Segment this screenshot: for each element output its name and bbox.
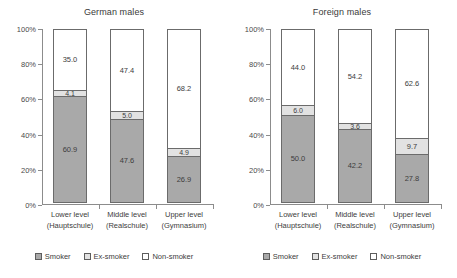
y-tick-label-40: 40% [21, 130, 36, 139]
chart-page: German males 100% 80% 60% 40% 20% 0% 3 [0, 0, 457, 278]
legend-item-non-smoker[interactable]: Non-smoker [370, 252, 421, 261]
category-label-line1: Upper level [393, 210, 431, 219]
legend-swatch-smoker-icon [35, 253, 42, 260]
legend-foreign-males: Smoker Ex-smoker Non-smoker [228, 252, 456, 261]
chart-panel-german-males: German males 100% 80% 60% 40% 20% 0% 3 [0, 0, 228, 250]
segment-smoker[interactable]: 50.0 [281, 115, 315, 203]
category-label-upper-level: Upper level (Gymnasium) [149, 209, 219, 231]
y-tick-label-20: 20% [21, 165, 36, 174]
stacked-bar-upper-level[interactable]: 62.6 9.7 27.8 [395, 29, 429, 205]
legend-swatch-smoker-icon [263, 253, 270, 260]
legend-item-ex-smoker[interactable]: Ex-smoker [312, 252, 358, 261]
category-label-line2: (Gymnasium) [377, 220, 447, 231]
category-label-line1: Upper level [165, 210, 203, 219]
segment-value-non-smoker: 47.4 [120, 67, 135, 75]
category-label-line1: Middle level [335, 210, 375, 219]
segment-value-smoker: 26.9 [177, 176, 192, 184]
x-axis-category-labels: Lower level (Hauptschule) Middle level (… [42, 209, 214, 241]
legend-label-smoker: Smoker [273, 252, 299, 261]
segment-value-non-smoker: 35.0 [63, 56, 78, 64]
segment-smoker[interactable]: 27.8 [395, 154, 429, 203]
stacked-bar-middle-level[interactable]: 54.2 3.6 42.2 [338, 29, 372, 205]
stacked-bar-lower-level[interactable]: 44.0 6.0 50.0 [281, 29, 315, 205]
y-tick-0 [266, 205, 270, 206]
y-tick-label-80: 80% [21, 60, 36, 69]
segment-value-smoker: 27.8 [405, 175, 420, 183]
y-tick-label-40: 40% [249, 130, 264, 139]
category-label-line1: Lower level [279, 210, 317, 219]
legend-swatch-ex-smoker-icon [312, 253, 319, 260]
plot-area-german-males: 100% 80% 60% 40% 20% 0% 35.0 4.1 [42, 29, 214, 205]
segment-value-ex-smoker: 9.7 [407, 143, 417, 151]
category-label-line1: Lower level [51, 210, 89, 219]
segment-non-smoker[interactable]: 68.2 [167, 29, 201, 149]
segment-value-non-smoker: 68.2 [177, 85, 192, 93]
y-tick-label-100: 100% [17, 25, 36, 34]
category-label-line2: (Gymnasium) [149, 220, 219, 231]
segment-value-smoker: 47.6 [120, 157, 135, 165]
legend-label-non-smoker: Non-smoker [380, 252, 421, 261]
segment-non-smoker[interactable]: 47.4 [110, 29, 144, 112]
legend-swatch-ex-smoker-icon [84, 253, 91, 260]
segment-value-smoker: 50.0 [291, 155, 306, 163]
bars-group-german-males: 35.0 4.1 60.9 47.4 5.0 [42, 29, 214, 205]
segment-ex-smoker[interactable]: 9.7 [395, 138, 429, 155]
chart-title-foreign-males: Foreign males [228, 7, 456, 17]
legend-label-smoker: Smoker [45, 252, 71, 261]
plot-area-foreign-males: 100% 80% 60% 40% 20% 0% 44.0 6.0 [270, 29, 442, 205]
segment-smoker[interactable]: 60.9 [53, 96, 87, 203]
bars-group-foreign-males: 44.0 6.0 50.0 54.2 3.6 [270, 29, 442, 205]
legend-item-smoker[interactable]: Smoker [35, 252, 71, 261]
chart-title-german-males: German males [0, 7, 228, 17]
segment-value-smoker: 60.9 [63, 146, 78, 154]
y-tick-label-60: 60% [21, 95, 36, 104]
category-label-line1: Middle level [107, 210, 147, 219]
legend-item-non-smoker[interactable]: Non-smoker [142, 252, 193, 261]
segment-smoker[interactable]: 42.2 [338, 129, 372, 203]
x-axis-category-labels: Lower level (Hauptschule) Middle level (… [270, 209, 442, 241]
chart-panel-foreign-males: Foreign males 100% 80% 60% 40% 20% 0% [228, 0, 456, 250]
segment-value-ex-smoker: 6.0 [293, 107, 303, 114]
segment-non-smoker[interactable]: 35.0 [53, 29, 87, 91]
segment-smoker[interactable]: 26.9 [167, 156, 201, 203]
y-tick-label-100: 100% [245, 25, 264, 34]
stacked-bar-lower-level[interactable]: 35.0 4.1 60.9 [53, 29, 87, 205]
legend-german-males: Smoker Ex-smoker Non-smoker [0, 252, 228, 261]
segment-value-non-smoker: 62.6 [405, 80, 420, 88]
segment-value-non-smoker: 54.2 [348, 73, 363, 81]
category-label-upper-level: Upper level (Gymnasium) [377, 209, 447, 231]
segment-smoker[interactable]: 47.6 [110, 119, 144, 203]
segment-value-smoker: 42.2 [348, 162, 363, 170]
legend-item-ex-smoker[interactable]: Ex-smoker [84, 252, 130, 261]
stacked-bar-upper-level[interactable]: 68.2 4.9 26.9 [167, 29, 201, 205]
y-tick-label-60: 60% [249, 95, 264, 104]
legend-item-smoker[interactable]: Smoker [263, 252, 299, 261]
segment-non-smoker[interactable]: 62.6 [395, 29, 429, 139]
y-tick-label-80: 80% [249, 60, 264, 69]
y-tick-label-20: 20% [249, 165, 264, 174]
legend-label-ex-smoker: Ex-smoker [322, 252, 358, 261]
y-tick-0 [38, 205, 42, 206]
stacked-bar-middle-level[interactable]: 47.4 5.0 47.6 [110, 29, 144, 205]
legend-label-non-smoker: Non-smoker [152, 252, 193, 261]
legend-swatch-non-smoker-icon [370, 253, 377, 260]
segment-value-non-smoker: 44.0 [291, 64, 306, 72]
legend-label-ex-smoker: Ex-smoker [94, 252, 130, 261]
segment-non-smoker[interactable]: 54.2 [338, 29, 372, 124]
segment-non-smoker[interactable]: 44.0 [281, 29, 315, 106]
legend-swatch-non-smoker-icon [142, 253, 149, 260]
